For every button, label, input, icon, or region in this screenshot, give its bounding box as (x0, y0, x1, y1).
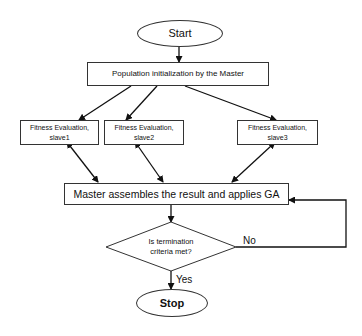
slave2-line1: Fitness Evaluation, (114, 123, 173, 132)
start-terminal: Start (137, 20, 223, 47)
slave3-line1: Fitness Evaluation, (248, 123, 307, 132)
decision-line2: criteria met? (150, 247, 191, 257)
decision-line1: Is termination (148, 237, 193, 247)
yes-edge-label: Yes (176, 274, 192, 285)
no-edge-label: No (243, 235, 256, 246)
decision-text: Is termination criteria met? (126, 232, 216, 262)
slave2-box: Fitness Evaluation, slave2 (104, 120, 184, 145)
edge-init-to-slave1 (79, 86, 131, 120)
edge-init-to-slave3 (185, 86, 276, 120)
connector-layer (0, 0, 362, 336)
slave3-line2: slave3 (267, 133, 287, 142)
start-label: Start (168, 26, 191, 41)
edge-slave1-master (70, 146, 98, 182)
master-assembles-box: Master assembles the result and applies … (64, 183, 289, 205)
population-init-label: Population initialization by the Master (112, 69, 244, 80)
edge-slave2-master (138, 146, 163, 182)
slave1-line2: slave1 (49, 133, 69, 142)
population-init-box: Population initialization by the Master (87, 62, 269, 86)
slave2-line2: slave2 (134, 133, 154, 142)
stop-terminal: Stop (136, 289, 208, 317)
slave1-line1: Fitness Evaluation, (30, 123, 89, 132)
stop-label: Stop (160, 296, 184, 311)
edge-init-to-slave2 (126, 86, 157, 120)
slave3-box: Fitness Evaluation, slave3 (237, 120, 318, 145)
master-assembles-label: Master assembles the result and applies … (73, 187, 279, 201)
slave1-box: Fitness Evaluation, slave1 (20, 120, 99, 145)
edge-slave3-master (232, 146, 271, 182)
